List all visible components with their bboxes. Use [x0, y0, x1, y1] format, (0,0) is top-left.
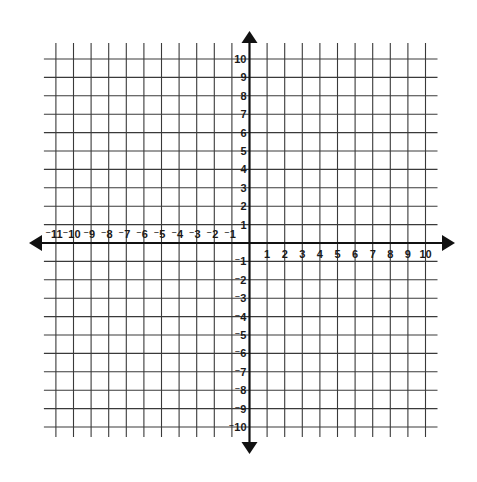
y-tick-label: ⁻5 [235, 329, 247, 341]
up-arrow-icon [242, 31, 258, 43]
x-tick-label: ⁻10 [62, 228, 80, 240]
y-tick-label: 7 [240, 108, 246, 120]
x-tick-label: 4 [317, 248, 324, 260]
y-tick-label: ⁻9 [235, 403, 247, 415]
x-tick-label: ⁻9 [83, 228, 95, 240]
x-tick-label: ⁻6 [136, 228, 148, 240]
y-tick-label: 9 [240, 71, 246, 83]
x-tick-label: 9 [405, 248, 411, 260]
x-tick-label: 10 [419, 248, 431, 260]
left-arrow-icon [29, 235, 42, 251]
x-tick-label: 8 [387, 248, 393, 260]
x-tick-label: ⁻5 [154, 228, 166, 240]
y-tick-label: 1 [240, 219, 246, 231]
y-tick-label: 5 [240, 145, 246, 157]
x-tick-label: 2 [282, 248, 288, 260]
x-tick-label: ⁻7 [118, 228, 130, 240]
x-tick-label: ⁻8 [101, 228, 113, 240]
coordinate-plane: ⁻11⁻10⁻9⁻8⁻7⁻6⁻5⁻4⁻3⁻2⁻11234567891010987… [0, 0, 477, 482]
y-tick-label: 3 [240, 182, 246, 194]
grid-lines [44, 43, 438, 437]
down-arrow-icon [242, 442, 258, 454]
y-tick-label: 2 [240, 200, 246, 212]
y-tick-label: 10 [234, 53, 246, 65]
y-tick-label: ⁻7 [235, 366, 247, 378]
x-tick-label: ⁻2 [206, 228, 218, 240]
y-tick-label: ⁻6 [235, 347, 247, 359]
x-tick-label: ⁻11 [45, 228, 62, 240]
x-tick-label: 5 [334, 248, 340, 260]
x-tick-label: 1 [264, 248, 270, 260]
y-tick-label: ⁻1 [235, 255, 247, 267]
y-tick-label: 8 [240, 90, 246, 102]
y-tick-label: ⁻8 [235, 384, 247, 396]
x-tick-label: ⁻4 [171, 228, 184, 240]
y-tick-label: ⁻3 [235, 292, 247, 304]
y-tick-label: 4 [240, 163, 247, 175]
y-tick-label: ⁻4 [235, 311, 248, 323]
y-tick-label: ⁻10 [228, 421, 246, 433]
x-tick-label: ⁻1 [224, 228, 236, 240]
right-arrow-icon [442, 235, 455, 251]
x-tick-label: ⁻3 [189, 228, 201, 240]
x-tick-label: 7 [370, 248, 376, 260]
y-tick-label: 6 [240, 127, 246, 139]
x-tick-label: 3 [299, 248, 305, 260]
x-tick-label: 6 [352, 248, 358, 260]
y-tick-label: ⁻2 [235, 274, 247, 286]
